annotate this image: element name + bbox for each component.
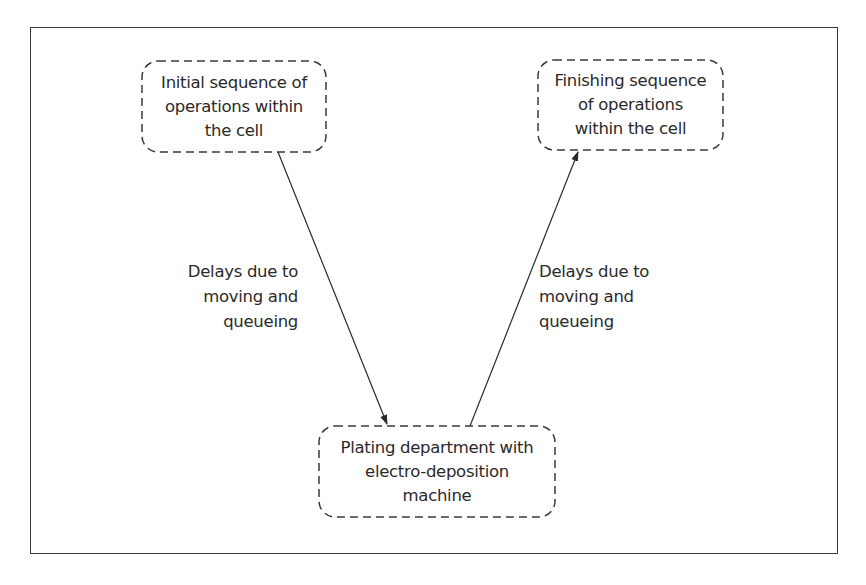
node-finishing-sequence: Finishing sequence of operations within … <box>538 60 723 150</box>
edge-label-initial-to-plating: Delays due to moving and queueing <box>188 259 298 334</box>
edge-label-plating-to-finishing: Delays due to moving and queueing <box>539 259 649 334</box>
node-initial-sequence-label: Initial sequence of operations within th… <box>161 71 307 143</box>
node-plating-department-label: Plating department with electro-depositi… <box>341 436 534 508</box>
node-plating-department: Plating department with electro-depositi… <box>319 426 555 517</box>
node-initial-sequence: Initial sequence of operations within th… <box>142 61 326 152</box>
node-finishing-sequence-label: Finishing sequence of operations within … <box>555 69 707 141</box>
